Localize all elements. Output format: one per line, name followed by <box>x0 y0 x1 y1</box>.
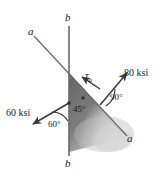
axis-label-b-bottom: b <box>65 158 71 169</box>
axis-label-a-upper-left: a <box>28 26 34 37</box>
stress-diagram-figure: b b a a 80 ksi 60 ksi τa 90° 45° 60° <box>0 0 159 179</box>
angle-label-45: 45° <box>73 105 86 114</box>
diagram-canvas <box>0 0 159 179</box>
tau-subscript: a <box>89 76 93 84</box>
axis-label-a-lower-right: a <box>127 133 133 144</box>
force-label-80ksi: 80 ksi <box>124 68 148 78</box>
point-dot-aa-upper <box>81 96 84 99</box>
angle-label-90: 90° <box>110 93 123 102</box>
point-dot-bb-left <box>67 101 70 104</box>
axis-label-b-top: b <box>65 12 71 23</box>
shear-stress-label: τa <box>85 71 92 84</box>
force-label-60ksi: 60 ksi <box>6 108 30 118</box>
angle-label-60: 60° <box>48 120 61 129</box>
